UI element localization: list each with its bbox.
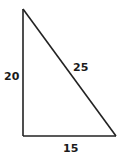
- vertical-side-label: 20: [4, 70, 20, 83]
- hypotenuse-label: 25: [73, 61, 88, 74]
- horizontal-side-label: 15: [63, 142, 78, 155]
- right-triangle-diagram: 20 25 15: [0, 0, 122, 159]
- hypotenuse-side: [23, 9, 116, 136]
